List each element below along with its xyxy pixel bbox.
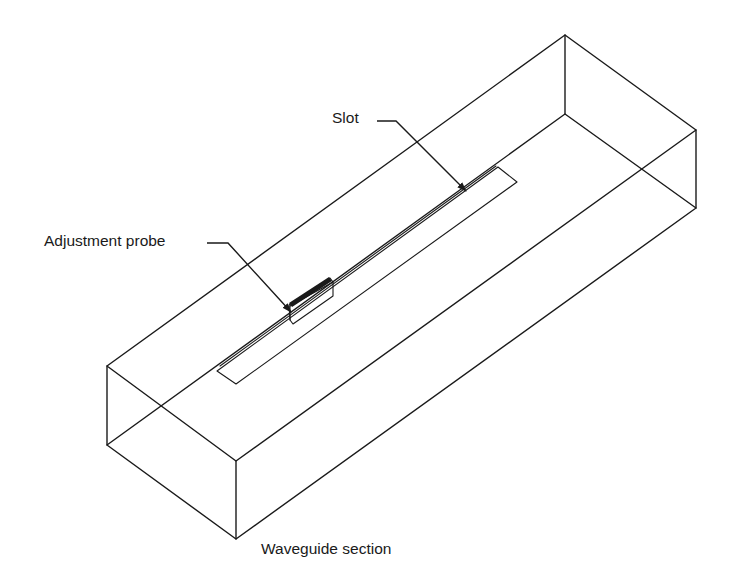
slot-leader-line bbox=[377, 121, 466, 191]
adjustment-probe-label: Adjustment probe bbox=[44, 233, 166, 249]
waveguide-section-label: Waveguide section bbox=[261, 541, 391, 557]
probe-leader-line bbox=[207, 243, 291, 312]
waveguide-box bbox=[107, 35, 696, 539]
box-top-face bbox=[107, 35, 696, 461]
waveguide-diagram bbox=[0, 0, 731, 584]
box-bottom-face bbox=[107, 114, 696, 539]
slot-shape bbox=[217, 166, 517, 384]
slot-label: Slot bbox=[332, 110, 359, 126]
